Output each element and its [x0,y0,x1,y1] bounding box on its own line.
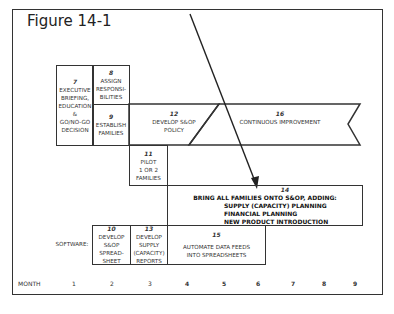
month-tick: 9 [353,280,357,287]
task-text: BRING ALL FAMILIES ONTO S&OP, ADDING: [168,194,362,202]
task-box-13: 13 DEVELOP SUPPLY (CAPACITY) REPORTS [130,225,168,265]
software-label: SOFTWARE: [52,240,92,248]
task-text: ASSIGN [100,77,121,85]
month-tick: 7 [291,280,295,287]
task-number: 15 [212,231,220,239]
task-text: SUPPLY [139,241,159,249]
task-text: INTO SPREADSHEETS [187,251,247,259]
task-label-16: 16 CONTINUOUS IMPROVEMENT [220,110,340,126]
month-tick: 3 [148,280,152,287]
task-text: EXECUTIVE [59,86,90,94]
task-number: 12 [134,110,214,118]
task-text: DEVELOP S&OP [134,118,214,126]
task-text: & [73,110,77,118]
task-label-12: 12 DEVELOP S&OP POLICY [134,110,214,134]
task-number: 10 [107,225,115,233]
task-number: 7 [73,78,77,86]
month-tick: 8 [322,280,326,287]
task-number: 11 [144,150,152,158]
task-text: POLICY [134,126,214,134]
task-text: 1 OR 2 [139,166,158,174]
diagram-shapes [0,0,394,314]
task-text: DEVELOP [136,233,162,241]
task-text: CONTINUOUS IMPROVEMENT [220,118,340,126]
task-text: EDUCATION [59,102,92,110]
task-text: BRIEFING, [61,94,89,102]
month-tick: 4 [185,280,189,287]
task-text: RESPONSI- [96,85,126,93]
task-box-10: 10 DEVELOP S&OP SPREAD- SHEET [92,225,131,265]
task-box-11: 11 PILOT 1 OR 2 FAMILIES [129,145,168,186]
month-axis-label: MONTH [18,280,41,287]
task-text: SHEET [102,257,120,265]
month-tick: 5 [222,280,226,287]
task-text: AUTOMATE DATA FEEDS [183,243,250,251]
arrow-line [190,14,256,184]
task-text: SPREAD- [99,249,124,257]
task-text: SUPPLY (CAPACITY) PLANNING [168,202,362,210]
task-text: DEVELOP [99,233,125,241]
task-box-15: 15 AUTOMATE DATA FEEDS INTO SPREADSHEETS [167,225,266,265]
month-tick: 1 [72,280,76,287]
task-box-7: 7 EXECUTIVE BRIEFING, EDUCATION & GO/NO-… [56,65,94,146]
task-text: DECISION [61,126,88,134]
task-box-9: 9 ESTABLISH FAMILIES [92,104,130,146]
month-tick: 6 [256,280,260,287]
month-tick: 2 [110,280,114,287]
task-text: BILITIES [100,93,122,101]
task-text: PILOT [141,158,157,166]
task-text: S&OP [104,241,120,249]
task-box-14: 14 BRING ALL FAMILIES ONTO S&OP, ADDING:… [167,185,363,226]
task-number: 8 [109,69,113,77]
task-number: 14 [281,186,289,194]
task-text: FINANCIAL PLANNING [168,210,362,218]
task-number: 13 [145,225,153,233]
task-text: ESTABLISH [96,121,126,129]
task-text: FAMILIES [136,174,161,182]
task-text: (CAPACITY) [133,249,164,257]
task-number: 9 [109,113,113,121]
task-box-8: 8 ASSIGN RESPONSI- BILITIES [92,65,130,105]
task-number: 16 [220,110,340,118]
task-text: FAMILIES [99,129,124,137]
task-text: REPORTS [136,257,162,265]
task-text: GO/NO-GO [60,118,90,126]
